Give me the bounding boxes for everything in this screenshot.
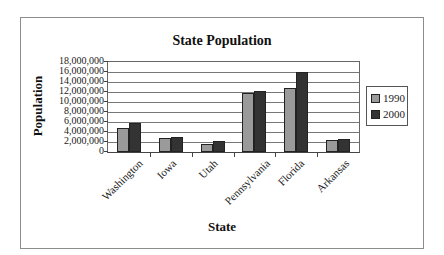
y-tick-mark bbox=[104, 111, 108, 112]
bar-washington-2000 bbox=[129, 123, 141, 153]
y-axis-label: Population bbox=[30, 56, 46, 156]
x-tick-mark bbox=[234, 153, 235, 157]
bar-washington-1990 bbox=[117, 128, 129, 153]
gridline bbox=[108, 92, 359, 93]
y-tick-mark bbox=[104, 151, 108, 152]
bar-florida-1990 bbox=[284, 88, 296, 153]
y-tick-mark bbox=[104, 101, 108, 102]
gridline bbox=[108, 82, 359, 83]
bar-arkansas-1990 bbox=[326, 140, 338, 152]
legend: 1990 2000 bbox=[366, 86, 408, 126]
bar-arkansas-2000 bbox=[338, 139, 350, 152]
x-tick-mark bbox=[150, 153, 151, 157]
bar-utah-2000 bbox=[213, 141, 225, 152]
gridline bbox=[108, 72, 359, 73]
y-tick-label: 2,000,000 bbox=[64, 136, 104, 146]
x-tick-mark bbox=[317, 153, 318, 157]
legend-label-1990: 1990 bbox=[383, 92, 405, 104]
y-tick-mark bbox=[104, 71, 108, 72]
y-tick-mark bbox=[104, 131, 108, 132]
y-tick-mark bbox=[104, 81, 108, 82]
legend-label-2000: 2000 bbox=[383, 108, 405, 120]
bar-iowa-2000 bbox=[171, 137, 183, 152]
y-axis-ticks: 18,000,00016,000,00014,000,00012,000,000… bbox=[52, 0, 104, 255]
legend-item-1990: 1990 bbox=[371, 92, 405, 104]
bar-iowa-1990 bbox=[159, 138, 171, 152]
x-tick-mark bbox=[275, 153, 276, 157]
gridline bbox=[108, 142, 359, 143]
bar-utah-1990 bbox=[201, 144, 213, 153]
legend-item-2000: 2000 bbox=[371, 108, 405, 120]
x-tick-mark bbox=[192, 153, 193, 157]
gridline bbox=[108, 132, 359, 133]
y-tick-mark bbox=[104, 61, 108, 62]
gridline bbox=[108, 102, 359, 103]
plot-area bbox=[107, 61, 360, 153]
gridline bbox=[108, 122, 359, 123]
bar-pennsylvania-2000 bbox=[254, 91, 266, 153]
gridline bbox=[108, 112, 359, 113]
bar-pennsylvania-1990 bbox=[242, 93, 254, 153]
y-tick-mark bbox=[104, 91, 108, 92]
legend-swatch-1990 bbox=[371, 94, 380, 103]
bar-florida-2000 bbox=[296, 72, 308, 152]
legend-swatch-2000 bbox=[371, 110, 380, 119]
y-tick-mark bbox=[104, 121, 108, 122]
y-tick-mark bbox=[104, 141, 108, 142]
